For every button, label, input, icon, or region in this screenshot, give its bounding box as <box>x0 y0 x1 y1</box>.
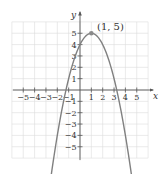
x-axis-label: x <box>153 91 158 101</box>
x-tick-label: −3 <box>40 93 52 102</box>
vertex-annotation <box>89 31 94 36</box>
vertex-label: (1, 5) <box>97 21 124 32</box>
x-tick-label: 1 <box>89 93 94 102</box>
y-tick-label: −3 <box>65 120 77 129</box>
x-tick-label: −5 <box>17 93 29 102</box>
x-tick-label: 3 <box>112 93 117 102</box>
y-tick-label: 5 <box>71 29 76 38</box>
y-tick-label: −2 <box>65 109 77 118</box>
x-tick-label: −4 <box>29 93 41 102</box>
y-tick-label: 1 <box>71 75 76 84</box>
axes <box>13 12 153 160</box>
x-tick-label: −2 <box>51 93 63 102</box>
x-tick-label: 5 <box>134 93 139 102</box>
y-tick-label: 4 <box>71 41 76 50</box>
x-tick-label: 2 <box>100 93 105 102</box>
y-tick-label: −5 <box>65 143 77 152</box>
y-tick-label: −4 <box>65 131 77 140</box>
parabola-graph: −5−4−3−2−11234554321−1−2−3−4−5 x y (1, 5… <box>0 0 162 174</box>
vertex-dot <box>89 31 94 36</box>
y-tick-label: −1 <box>65 97 77 106</box>
y-axis-label: y <box>70 10 77 20</box>
x-tick-label: 4 <box>123 93 128 102</box>
